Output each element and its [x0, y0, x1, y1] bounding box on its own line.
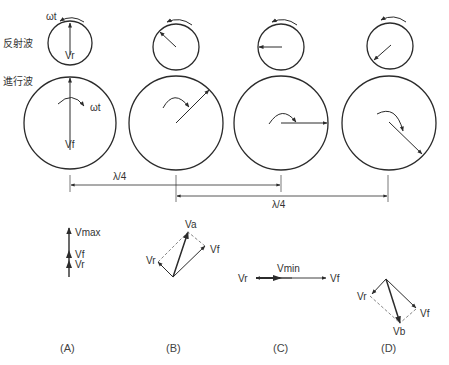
- vr-label-b: Vr: [146, 255, 156, 266]
- caption-c: (C): [273, 342, 288, 354]
- rotation-arrow-icon: [381, 17, 406, 22]
- vr-phasor-label: Vr: [65, 50, 75, 61]
- reflected-phasor-b: [160, 32, 176, 47]
- standing-wave-phasor-diagram: 反射波 進行波 ωt Vr ωt Vf: [0, 0, 449, 365]
- column-b-phasors: [129, 20, 223, 170]
- rotation-arrow-icon: [269, 113, 296, 124]
- vr-label-d: Vr: [357, 291, 367, 302]
- omega-t-label: ωt: [90, 102, 101, 113]
- vector-diagram-c: Vmin Vf Vr: [238, 263, 340, 284]
- quarter-wave-label-1: λ/4: [113, 171, 127, 182]
- forward-phasor-b: [176, 90, 209, 123]
- vf-label-d: Vf: [420, 308, 430, 319]
- column-a-phasors: ωt Vr ωt Vf: [24, 11, 116, 169]
- column-d-phasors: [342, 17, 436, 170]
- reflected-wave-label: 反射波: [3, 37, 33, 49]
- forward-phasor-d: [389, 122, 422, 154]
- vf-label-b: Vf: [210, 244, 220, 255]
- vr-label-a: Vr: [75, 259, 85, 270]
- vf-arrowhead-icon: [66, 250, 72, 258]
- vr-arrowhead-icon: [66, 260, 72, 268]
- rotation-arrow-icon: [163, 98, 189, 108]
- column-c-phasors: [234, 20, 328, 170]
- traveling-wave-label: 進行波: [3, 75, 33, 87]
- rotation-arrow-icon: [377, 111, 403, 131]
- vector-diagram-d: Vr Vf Vb: [357, 279, 430, 337]
- omega-t-label: ωt: [46, 11, 57, 22]
- quarter-wave-label-2: λ/4: [272, 199, 286, 210]
- vmin-arrowhead-icon: [273, 275, 282, 281]
- caption-b: (B): [166, 342, 181, 354]
- vmin-label: Vmin: [277, 263, 300, 274]
- caption-d: (D): [381, 342, 396, 354]
- vr-vector-d: [372, 279, 386, 294]
- quarter-wavelength-dimensions: λ/4 λ/4: [70, 171, 388, 210]
- vr-label-c: Vr: [238, 273, 248, 284]
- reflected-phasor-d: [374, 45, 391, 60]
- vector-diagram-b: Va Vf Vr: [146, 219, 220, 277]
- caption-a: (A): [60, 342, 75, 354]
- vmax-label: Vmax: [75, 227, 101, 238]
- parallelogram-dash: [188, 232, 205, 246]
- vf-label-c: Vf: [330, 273, 340, 284]
- va-label: Va: [185, 219, 197, 230]
- traveling-wave-circle-d: [342, 76, 436, 170]
- parallelogram-dash: [400, 309, 416, 323]
- vf-phasor-label: Vf: [65, 139, 75, 150]
- vr-vector-b: [158, 262, 173, 277]
- vb-label: Vb: [393, 326, 406, 337]
- rotation-arrow-icon: [58, 97, 84, 106]
